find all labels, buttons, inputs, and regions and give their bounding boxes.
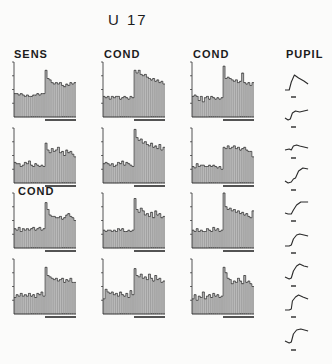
histogram-bar bbox=[126, 98, 128, 117]
histogram-bar bbox=[207, 229, 209, 248]
histogram-bar bbox=[33, 167, 35, 184]
histogram-bar bbox=[126, 162, 128, 183]
histogram-bar bbox=[74, 282, 76, 314]
histogram-bar bbox=[199, 232, 201, 249]
histogram-bar bbox=[250, 85, 252, 117]
histogram-bar bbox=[132, 167, 134, 184]
histogram-bar bbox=[240, 214, 242, 248]
histogram-bar bbox=[18, 296, 20, 314]
histogram-bar bbox=[29, 293, 31, 314]
histogram-bar bbox=[54, 151, 56, 183]
histogram-bar bbox=[225, 207, 227, 248]
histogram-bar bbox=[230, 280, 232, 314]
histogram-bar bbox=[157, 280, 159, 314]
histogram-bar bbox=[56, 218, 58, 248]
histogram-bar bbox=[151, 212, 153, 248]
histogram-bar bbox=[124, 96, 126, 117]
histogram-panel bbox=[190, 259, 254, 317]
histogram-bar bbox=[238, 211, 240, 248]
histogram-bar bbox=[136, 276, 138, 315]
histogram-bar bbox=[130, 291, 132, 314]
pupil-trace bbox=[285, 145, 308, 158]
histogram-bar bbox=[194, 168, 196, 183]
histogram-bar bbox=[203, 165, 205, 183]
histogram-bar bbox=[149, 216, 151, 248]
histogram-bar bbox=[145, 277, 147, 314]
histogram-bar bbox=[199, 167, 201, 184]
histogram-bar bbox=[128, 298, 130, 315]
histogram-bar bbox=[196, 300, 198, 314]
histogram-bar bbox=[221, 296, 223, 314]
histogram-bar bbox=[16, 164, 18, 183]
histogram-bar bbox=[219, 99, 221, 117]
histogram-bar bbox=[157, 215, 159, 248]
histogram-bar bbox=[130, 232, 132, 249]
histogram-bar bbox=[246, 214, 248, 248]
histogram-bar bbox=[225, 149, 227, 183]
histogram-bar bbox=[49, 215, 51, 248]
histogram-bar bbox=[194, 232, 196, 249]
histogram-bar bbox=[215, 230, 217, 248]
histogram-bar bbox=[215, 167, 217, 184]
histogram-bar bbox=[211, 167, 213, 184]
histogram-bar bbox=[72, 84, 74, 117]
histogram-bar bbox=[159, 214, 161, 248]
histogram-bar bbox=[232, 211, 234, 248]
histogram-bar bbox=[143, 143, 145, 183]
histogram-panel bbox=[101, 128, 165, 186]
histogram-bar bbox=[211, 298, 213, 315]
histogram-bar bbox=[130, 96, 132, 117]
histogram-bar bbox=[145, 142, 147, 183]
histogram-bar bbox=[21, 232, 23, 249]
histogram-bar bbox=[124, 232, 126, 249]
histogram-bar bbox=[230, 79, 232, 118]
histogram-bar bbox=[56, 150, 58, 183]
histogram-bar bbox=[225, 273, 227, 314]
histogram-bar bbox=[110, 293, 112, 314]
histogram-bar bbox=[64, 87, 66, 117]
histogram-bar bbox=[68, 214, 70, 248]
histogram-bar bbox=[126, 232, 128, 249]
histogram-bar bbox=[147, 214, 149, 248]
histogram-bar bbox=[18, 95, 20, 117]
histogram-bar bbox=[205, 167, 207, 184]
histogram-bar bbox=[49, 277, 51, 314]
histogram-bar bbox=[25, 96, 27, 117]
histogram-bar bbox=[27, 95, 29, 117]
histogram-bar bbox=[161, 81, 163, 117]
histogram-bar bbox=[43, 94, 45, 117]
histogram-bar bbox=[238, 278, 240, 314]
histogram-bar bbox=[52, 216, 54, 248]
histogram-bar bbox=[244, 215, 246, 248]
histogram-bar bbox=[105, 162, 107, 183]
histogram-bar bbox=[134, 70, 136, 117]
histogram-panel bbox=[190, 62, 254, 120]
pupil-trace bbox=[285, 75, 308, 97]
histogram-bar bbox=[62, 278, 64, 314]
histogram-bar bbox=[236, 212, 238, 248]
histogram-bar bbox=[234, 281, 236, 314]
histogram-bar bbox=[62, 85, 64, 117]
histogram-bar bbox=[18, 227, 20, 248]
histogram-bar bbox=[58, 218, 60, 248]
histogram-bar bbox=[29, 230, 31, 248]
histogram-bar bbox=[203, 232, 205, 249]
histogram-bar bbox=[105, 289, 107, 314]
histogram-bar bbox=[236, 282, 238, 314]
histogram-bar bbox=[33, 295, 35, 314]
histogram-bar bbox=[211, 96, 213, 117]
histogram-bar bbox=[16, 230, 18, 248]
histogram-bar bbox=[110, 99, 112, 117]
histogram-bar bbox=[136, 73, 138, 117]
histogram-bar bbox=[143, 76, 145, 117]
histogram-bar bbox=[29, 161, 31, 183]
histogram-bar bbox=[41, 292, 43, 314]
histogram-bar bbox=[62, 219, 64, 248]
histogram-bar bbox=[120, 164, 122, 183]
histogram-bar bbox=[227, 77, 229, 117]
pupil-trace bbox=[285, 329, 308, 350]
pupil-trace bbox=[285, 202, 308, 221]
histogram-bar bbox=[103, 299, 105, 314]
histogram-bar bbox=[110, 165, 112, 183]
histogram-bar bbox=[192, 299, 194, 314]
